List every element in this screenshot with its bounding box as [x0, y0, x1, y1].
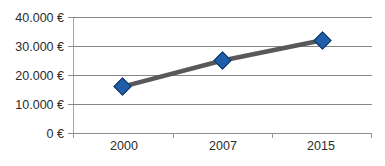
y-axis-label-20000: 20.000 € [0, 70, 64, 83]
gridline-0-baseline [73, 133, 372, 134]
x-axis-label-2015: 2015 [281, 140, 361, 153]
y-tick-mark-30000 [68, 46, 73, 47]
x-tick-mark-3 [371, 133, 372, 138]
y-axis-label-10000: 10.000 € [0, 99, 64, 112]
gridline-20000 [73, 75, 372, 76]
line-chart: 40.000 € 30.000 € 20.000 € 10.000 € 0 € … [0, 0, 385, 166]
x-axis-label-2007: 2007 [183, 140, 263, 153]
x-axis-label-2000: 2000 [84, 140, 164, 153]
y-tick-mark-10000 [68, 104, 73, 105]
y-axis-label-0: 0 € [0, 128, 64, 141]
x-tick-mark-2 [272, 133, 273, 138]
gridline-10000 [73, 104, 372, 105]
y-tick-mark-20000 [68, 75, 73, 76]
x-tick-mark-0 [73, 133, 74, 138]
y-tick-mark-40000 [68, 17, 73, 18]
gridline-40000 [73, 17, 372, 18]
gridline-30000 [73, 46, 372, 47]
plot-area [73, 17, 372, 133]
x-tick-mark-1 [173, 133, 174, 138]
y-axis-label-30000: 30.000 € [0, 41, 64, 54]
y-axis-label-40000: 40.000 € [0, 12, 64, 25]
